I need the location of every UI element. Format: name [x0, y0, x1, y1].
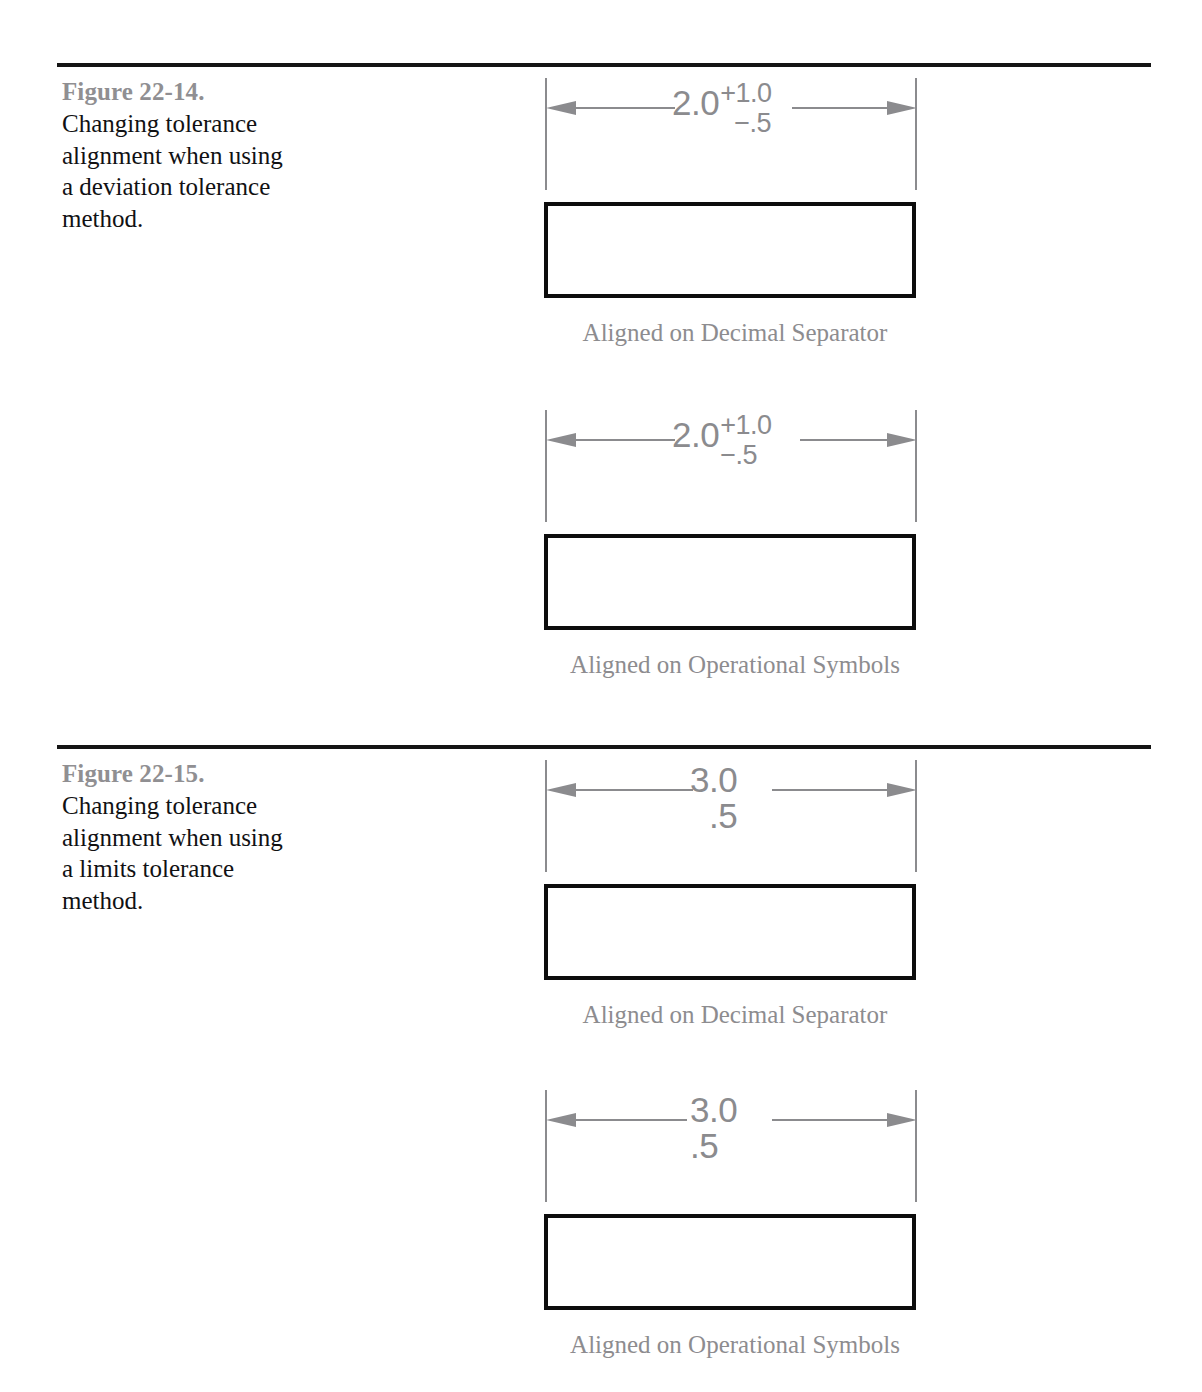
lower-limit: .5	[690, 1128, 737, 1164]
extension-line-right	[915, 1090, 917, 1202]
extension-line-left	[545, 760, 547, 872]
extension-line-right	[915, 78, 917, 190]
arrowhead-right-icon	[887, 783, 917, 797]
drawing-caption: Aligned on Decimal Separator	[520, 318, 950, 348]
lower-limit: .5	[709, 798, 737, 834]
arrowhead-left-icon	[546, 101, 576, 115]
nominal-value: 2.0	[672, 416, 719, 454]
arrowhead-left-icon	[546, 433, 576, 447]
dimension-line-right-segment	[800, 439, 888, 441]
extension-line-right	[915, 760, 917, 872]
upper-limit: 3.0	[690, 1092, 737, 1128]
dimension-value-limits: 3.0 .5	[690, 1092, 737, 1164]
arrowhead-left-icon	[546, 1113, 576, 1127]
upper-deviation: +1.0	[720, 81, 771, 106]
dimension-line-left-segment	[575, 1119, 687, 1121]
dimension-line-right-segment	[772, 1119, 888, 1121]
upper-deviation: +1.0	[720, 413, 771, 438]
dimension-value-limits: 3.0 .5	[690, 762, 737, 834]
drawing-caption: Aligned on Operational Symbols	[520, 650, 950, 680]
upper-limit: 3.0	[690, 762, 737, 798]
extension-line-left	[545, 78, 547, 190]
figure-label: Figure 22-14.	[62, 76, 362, 107]
nominal-value: 2.0	[672, 84, 719, 122]
figure-description: Changing tolerance alignment when using …	[62, 790, 287, 916]
figure-label: Figure 22-15.	[62, 758, 362, 789]
dimension-line-right-segment	[792, 107, 888, 109]
part-outline-rectangle	[544, 534, 916, 630]
drawing-caption: Aligned on Decimal Separator	[520, 1000, 950, 1030]
part-outline-rectangle	[544, 202, 916, 298]
extension-line-right	[915, 410, 917, 522]
dimension-line-right-segment	[772, 789, 888, 791]
horizontal-rule-middle	[57, 745, 1151, 749]
figure-page: Figure 22-14. Changing tolerance alignme…	[0, 0, 1202, 1392]
arrowhead-right-icon	[887, 1113, 917, 1127]
dimension-line-left-segment	[575, 789, 693, 791]
extension-line-left	[545, 1090, 547, 1202]
figure-description: Changing tolerance alignment when using …	[62, 108, 287, 234]
part-outline-rectangle	[544, 884, 916, 980]
drawing-caption: Aligned on Operational Symbols	[520, 1330, 950, 1360]
part-outline-rectangle	[544, 1214, 916, 1310]
dimension-value-deviation: 2.0 +1.0 −.5	[672, 416, 771, 468]
arrowhead-right-icon	[887, 101, 917, 115]
lower-deviation: −.5	[734, 111, 771, 136]
dimension-line-left-segment	[575, 107, 675, 109]
dimension-value-deviation: 2.0 +1.0 −.5	[672, 84, 771, 136]
extension-line-left	[545, 410, 547, 522]
arrowhead-left-icon	[546, 783, 576, 797]
dimension-line-left-segment	[575, 439, 675, 441]
arrowhead-right-icon	[887, 433, 917, 447]
figure-caption-block-22-14: Figure 22-14. Changing tolerance alignme…	[62, 76, 362, 234]
figure-caption-block-22-15: Figure 22-15. Changing tolerance alignme…	[62, 758, 362, 916]
horizontal-rule-top	[57, 63, 1151, 67]
lower-deviation: −.5	[720, 443, 771, 468]
